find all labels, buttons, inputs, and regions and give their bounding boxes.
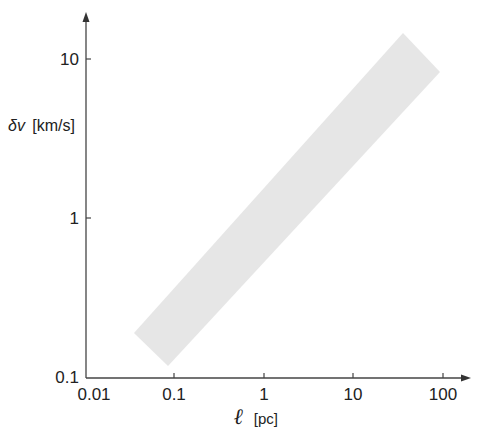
x-tick-label: 0.01 — [77, 385, 110, 404]
y-axis-label: δv [km/s] — [8, 117, 75, 134]
x-tick-label: 1 — [259, 385, 268, 404]
y-tick-label: 0.1 — [55, 368, 79, 387]
x-axis-arrow-icon — [461, 375, 471, 382]
shaded-band — [134, 33, 440, 366]
chart-canvas: 10 1 0.1 0.01 0.1 1 10 100 δv [km/s] ℓ [… — [0, 0, 483, 440]
y-tick-label: 10 — [60, 50, 79, 69]
x-axis-label: ℓ [pc] — [234, 404, 278, 429]
y-axis-arrow-icon — [83, 12, 90, 22]
x-tick-label: 100 — [429, 385, 457, 404]
y-tick-label: 1 — [70, 209, 79, 228]
x-tick-label: 10 — [344, 385, 363, 404]
x-tick-label: 0.1 — [162, 385, 186, 404]
